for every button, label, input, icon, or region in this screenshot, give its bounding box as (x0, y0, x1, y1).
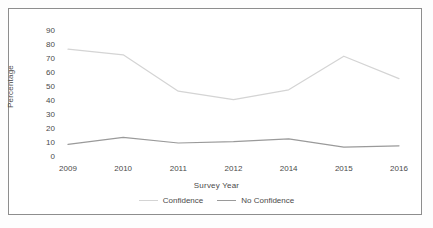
chart-plot-area: Percentage Survey Year 01020304050607080… (0, 0, 433, 228)
y-tick-label-10: 10 (33, 138, 55, 147)
y-tick-label-70: 70 (33, 54, 55, 63)
legend-label: No Confidence (241, 196, 294, 205)
chart-figure: Percentage Survey Year 01020304050607080… (0, 0, 433, 228)
x-tick-label-2012: 2012 (214, 164, 254, 173)
y-axis-title: Percentage (6, 57, 15, 117)
legend-swatch-icon (139, 200, 158, 201)
legend-label: Confidence (163, 196, 203, 205)
y-tick-label-0: 0 (33, 152, 55, 161)
legend-item-no-confidence[interactable]: No Confidence (217, 196, 294, 205)
y-tick-label-50: 50 (33, 82, 55, 91)
x-tick-label-2016: 2016 (379, 164, 419, 173)
x-tick-label-2014: 2014 (269, 164, 309, 173)
y-tick-label-60: 60 (33, 68, 55, 77)
chart-legend: ConfidenceNo Confidence (0, 196, 433, 205)
y-tick-label-20: 20 (33, 124, 55, 133)
series-line-no-confidence (68, 137, 399, 147)
x-tick-label-2010: 2010 (103, 164, 143, 173)
series-line-confidence (68, 49, 399, 99)
y-tick-label-90: 90 (33, 26, 55, 35)
legend-item-confidence[interactable]: Confidence (139, 196, 203, 205)
y-tick-label-80: 80 (33, 40, 55, 49)
chart-series-lines (0, 0, 433, 228)
legend-swatch-icon (217, 200, 236, 201)
x-tick-label-2011: 2011 (158, 164, 198, 173)
x-tick-label-2015: 2015 (324, 164, 364, 173)
y-tick-label-30: 30 (33, 110, 55, 119)
y-tick-label-40: 40 (33, 96, 55, 105)
x-axis-title: Survey Year (0, 181, 433, 190)
x-tick-label-2009: 2009 (48, 164, 88, 173)
